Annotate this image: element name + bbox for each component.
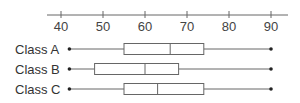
max-dot-icon [269,67,273,71]
x-axis-tick-label: 50 [96,19,110,34]
box-plot-chart: 405060708090 Class AClass BClass C [0,0,300,103]
x-axis: 405060708090 [47,11,288,34]
iqr-box [124,84,204,95]
row-label: Class B [15,62,60,77]
min-dot-icon [68,87,72,91]
max-dot-icon [269,47,273,51]
x-axis-tick-label: 40 [54,19,68,34]
max-dot-icon [269,87,273,91]
x-axis-tick-label: 80 [222,19,236,34]
box-plot-rows: Class AClass BClass C [15,42,273,97]
box-plot-row-class-b: Class B [15,62,273,77]
box-plot-row-class-a: Class A [15,42,273,57]
iqr-box [95,64,179,75]
box-plot-row-class-c: Class C [15,82,273,97]
min-dot-icon [68,67,72,71]
min-dot-icon [68,47,72,51]
x-axis-tick-label: 70 [180,19,194,34]
x-axis-tick-label: 60 [138,19,152,34]
iqr-box [124,44,204,55]
row-label: Class C [15,82,61,97]
row-label: Class A [15,42,59,57]
x-axis-tick-label: 90 [264,19,278,34]
